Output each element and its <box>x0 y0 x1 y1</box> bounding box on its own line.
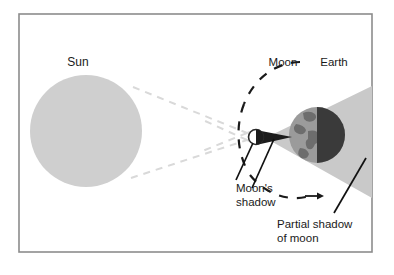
label-partial-shadow-line2: of moon <box>277 232 319 244</box>
sun-body <box>30 75 142 187</box>
label-moons-shadow-line1: Moon's <box>236 182 273 194</box>
diagram-canvas: Sun Moon Earth Moon's shadow Partial sha… <box>0 0 394 275</box>
label-earth: Earth <box>320 56 348 68</box>
label-moon: Moon <box>269 56 298 68</box>
label-moons-shadow-line2: shadow <box>236 196 276 208</box>
label-sun: Sun <box>67 55 88 69</box>
eclipse-diagram: Sun Moon Earth Moon's shadow Partial sha… <box>0 0 394 275</box>
label-partial-shadow-line1: Partial shadow <box>277 218 353 230</box>
